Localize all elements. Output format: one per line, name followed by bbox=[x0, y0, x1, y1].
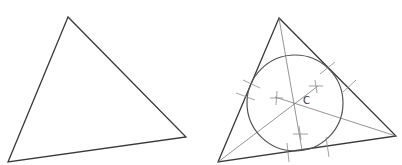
arc-mark bbox=[326, 137, 329, 157]
incenter-label: C bbox=[303, 95, 310, 106]
right-triangle bbox=[218, 18, 396, 162]
cross-mark-bottom bbox=[293, 126, 308, 140]
geometry-figure: C bbox=[0, 0, 402, 165]
arc-mark bbox=[343, 80, 356, 92]
right-construction: C bbox=[218, 18, 396, 162]
left-triangle bbox=[8, 17, 186, 162]
arc-mark bbox=[243, 80, 260, 88]
bisector-from-right bbox=[275, 97, 396, 136]
arc-mark bbox=[236, 93, 255, 100]
cross-mark-left bbox=[270, 91, 283, 105]
